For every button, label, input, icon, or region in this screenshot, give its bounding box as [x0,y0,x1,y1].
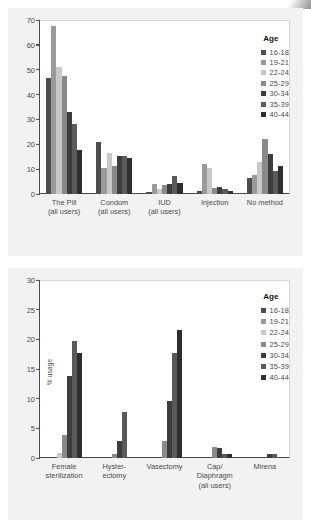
x-axis-category-label: Mirena [240,462,290,490]
legend-entry-label: 40-44 [270,110,289,119]
legend-swatch-icon [261,375,266,380]
legend-swatch-icon [261,342,266,347]
figure-page: % usage 010203040506070 The Pill(all use… [0,0,311,528]
legend-swatch-icon [261,102,266,107]
legend-entry: 35-39 [261,361,289,372]
x-label-line: Vasectomy [139,462,189,471]
x-label-line: (all users) [139,207,189,216]
legend-entry: 30-34 [261,350,289,361]
legend-swatch-icon [261,308,266,313]
x-label-line: (all users) [190,481,240,490]
x-axis-category-label: Condom(all users) [89,198,139,217]
plot-area-bottom: % usage 051015202530 Femalesterilization… [39,280,290,458]
y-tick-label: 0 [31,190,39,199]
legend-swatch-icon [261,112,266,117]
x-axis-labels-top: The Pill(all users)Condom(all users)IUD(… [39,194,290,217]
bar-group [89,20,139,194]
bar-group [190,20,240,194]
bar [122,412,127,458]
x-label-line: Cap/ [190,462,240,471]
legend-entry: 19-21 [261,316,289,327]
chart-panel-sterilization-usage: % usage 051015202530 Femalesterilization… [8,268,303,520]
legend-entry: 22-24 [261,327,289,338]
x-axis-category-label: Femalesterilization [39,462,89,490]
legend-entry-label: 30-34 [270,351,289,360]
legend-title: Age [261,34,289,43]
x-label-line: Mirena [240,462,290,471]
legend-entry-label: 22-24 [270,328,289,337]
legend-bottom: Age 16-1819-2122-2425-2930-3435-3940-44 [261,292,289,383]
x-axis-category-label: Hyster-ectomy [89,462,139,490]
legend-entry: 22-24 [261,68,289,78]
legend-entry: 40-44 [261,109,289,119]
x-label-line: Hyster- [89,462,139,471]
bar [77,150,82,194]
x-axis-labels-bottom: FemalesterilizationHyster-ectomyVasectom… [39,458,290,490]
legend-entry-label: 40-44 [270,373,289,382]
chart-panel-contraception-usage: % usage 010203040506070 The Pill(all use… [8,8,303,256]
x-axis-category-label: IUD(all users) [139,198,189,217]
y-tick-label: 20 [27,140,39,149]
legend-entry: 19-21 [261,57,289,67]
y-tick-label: 60 [27,40,39,49]
y-tick-label: 0 [31,454,39,463]
legend-entry: 35-39 [261,99,289,109]
x-label-line: ectomy [89,471,139,480]
legend-entry: 16-18 [261,47,289,57]
x-label-line: The Pill [39,198,89,207]
legend-swatch-icon [261,364,266,369]
legend-entry-label: 25-29 [270,340,289,349]
legend-entry: 25-29 [261,339,289,350]
legend-swatch-icon [261,319,266,324]
x-axis-category-label: Cap/Diaphragm(all users) [190,462,240,490]
plot-area-top: % usage 010203040506070 The Pill(all use… [39,20,290,194]
legend-entry-label: 19-21 [270,58,289,67]
legend-entry-label: 22-24 [270,68,289,77]
y-tick-label: 20 [27,335,39,344]
x-label-line: Condom [89,198,139,207]
x-label-line: (all users) [89,207,139,216]
legend-swatch-icon [261,81,266,86]
legend-swatch-icon [261,70,266,75]
legend-entry-label: 19-21 [270,317,289,326]
y-tick-label: 25 [27,305,39,314]
legend-entry: 25-29 [261,78,289,88]
legend-entry: 40-44 [261,372,289,383]
y-tick-label: 10 [27,394,39,403]
x-label-line: Diaphragm [190,471,240,480]
legend-entry: 30-34 [261,89,289,99]
bar-group [39,20,89,194]
y-tick-label: 50 [27,65,39,74]
legend-entry: 16-18 [261,305,289,316]
bar-group [139,20,189,194]
legend-swatch-icon [261,50,266,55]
bar-group [89,280,139,458]
x-label-line: No method [240,198,290,207]
bar [177,330,182,458]
bar-groups-top [39,20,290,194]
x-label-line: Injection [190,198,240,207]
y-tick-label: 15 [27,365,39,374]
bar-group [139,280,189,458]
y-tick-label: 10 [27,165,39,174]
bar [77,353,82,458]
legend-entry-label: 30-34 [270,89,289,98]
bar-groups-bottom [39,280,290,458]
legend-swatch-icon [261,91,266,96]
x-axis-category-label: Vasectomy [139,462,189,490]
y-tick-label: 40 [27,90,39,99]
x-label-line: Female [39,462,89,471]
legend-entry-label: 35-39 [270,362,289,371]
legend-swatch-icon [261,353,266,358]
bar [127,158,132,194]
x-axis-category-label: Injection [190,198,240,217]
x-axis-category-label: No method [240,198,290,217]
legend-entry-label: 25-29 [270,79,289,88]
legend-entry-label: 35-39 [270,100,289,109]
y-tick-label: 70 [27,16,39,25]
legend-title: Age [261,292,289,301]
y-tick-label: 30 [27,276,39,285]
x-label-line: (all users) [39,207,89,216]
y-tick-label: 5 [31,424,39,433]
bar [177,183,182,194]
